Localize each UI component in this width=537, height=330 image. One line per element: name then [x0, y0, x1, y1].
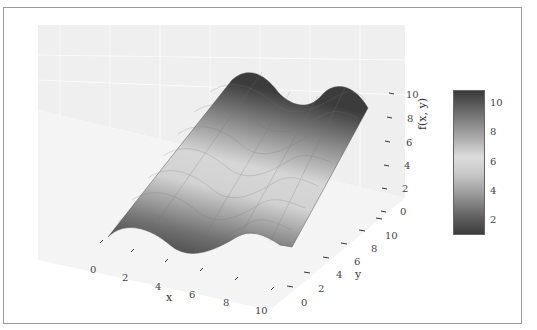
z-tick-2: 2	[402, 184, 408, 194]
x-axis-title: x	[166, 291, 172, 304]
y-tick-0: 0	[301, 298, 307, 308]
z-tick-6: 6	[406, 138, 412, 148]
y-tick-2: 2	[318, 284, 324, 294]
colorbar-tick-2: 2	[490, 214, 496, 225]
y-tick-8: 8	[371, 244, 377, 254]
x-tick-4: 4	[155, 282, 161, 292]
x-tick-2: 2	[122, 273, 128, 283]
y-axis-title: y	[355, 268, 361, 281]
x-tick-8: 8	[223, 298, 229, 308]
x-tick-6: 6	[189, 290, 195, 300]
z-tick-8: 8	[407, 114, 413, 124]
y-tick-10: 10	[385, 231, 398, 241]
colorbar	[453, 90, 485, 235]
z-tick-0: 0	[400, 207, 406, 217]
x-tick-0: 0	[90, 265, 96, 275]
colorbar-tick-8: 8	[490, 126, 496, 137]
z-axis-title: f(x, y)	[416, 98, 429, 130]
y-tick-6: 6	[354, 257, 360, 267]
y-tick-4: 4	[336, 270, 342, 280]
colorbar-tick-4: 4	[490, 185, 496, 196]
x-tick-10: 10	[255, 306, 268, 316]
z-tick-4: 4	[404, 161, 410, 171]
colorbar-tick-6: 6	[490, 156, 496, 167]
colorbar-tick-10: 10	[490, 97, 503, 108]
